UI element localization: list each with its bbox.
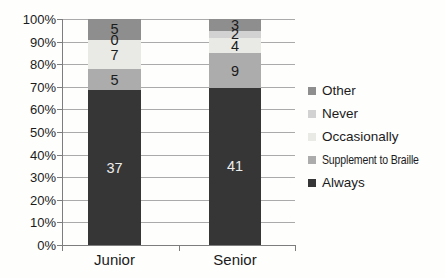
legend-item-never: Never <box>308 102 445 125</box>
legend-label: Other <box>322 84 356 98</box>
legend-label: Occasionally <box>322 130 399 144</box>
data-label: 9 <box>231 64 239 78</box>
data-label: 41 <box>227 159 243 173</box>
legend-label: Always <box>322 176 365 190</box>
y-axis-tick <box>57 87 62 88</box>
y-axis-tick <box>57 132 62 133</box>
y-axis-tick <box>57 19 62 20</box>
y-axis-tick <box>57 42 62 43</box>
data-label: 5 <box>110 73 118 87</box>
legend-swatch-icon <box>308 110 316 118</box>
x-axis-tick <box>179 246 180 251</box>
y-axis-tick-label: 0% <box>6 239 56 252</box>
y-axis-tick-label: 40% <box>6 149 56 162</box>
data-label: 5 <box>110 22 118 36</box>
data-label: 37 <box>106 161 122 175</box>
y-axis-tick <box>57 177 62 178</box>
y-axis-tick <box>57 222 62 223</box>
y-axis-tick-label: 70% <box>6 81 56 94</box>
y-axis-tick <box>57 109 62 110</box>
y-axis-tick-label: 80% <box>6 58 56 71</box>
y-axis-tick-label: 90% <box>6 36 56 49</box>
legend-item-occasionally: Occasionally <box>308 125 445 148</box>
x-axis-category-label: Senior <box>213 251 256 268</box>
y-axis-tick-label: 10% <box>6 216 56 229</box>
legend-swatch-icon <box>308 156 316 164</box>
y-axis-tick-label: 100% <box>6 13 56 26</box>
legend-item-always: Always <box>308 171 445 194</box>
bar-junior: 375705 <box>88 19 141 245</box>
legend-label: Supplement to Braille <box>322 153 419 167</box>
y-axis-tick <box>57 200 62 201</box>
y-axis-tick-label: 50% <box>6 126 56 139</box>
legend-item-other: Other <box>308 79 445 102</box>
legend-label: Never <box>322 107 358 121</box>
y-axis-tick <box>57 64 62 65</box>
stacked-bar-chart: 375705419423 0%10%20%30%40%50%60%70%80%9… <box>0 0 445 278</box>
plot-area: 375705419423 <box>63 19 295 245</box>
y-axis-tick-label: 30% <box>6 171 56 184</box>
data-label: 3 <box>231 18 239 32</box>
x-axis-category-label: Junior <box>94 251 135 268</box>
y-axis-tick <box>57 155 62 156</box>
x-axis-tick <box>295 246 296 251</box>
bar-senior: 419423 <box>209 19 261 245</box>
y-axis-tick-label: 60% <box>6 103 56 116</box>
legend-swatch-icon <box>308 87 316 95</box>
y-axis-tick-label: 20% <box>6 194 56 207</box>
legend-swatch-icon <box>308 133 316 141</box>
legend-item-supplement-to-braille: Supplement to Braille <box>308 148 445 171</box>
data-label: 7 <box>110 48 118 62</box>
x-axis-tick <box>62 246 63 251</box>
legend-swatch-icon <box>308 179 316 187</box>
legend: OtherNeverOccasionallySupplement to Brai… <box>308 79 445 194</box>
